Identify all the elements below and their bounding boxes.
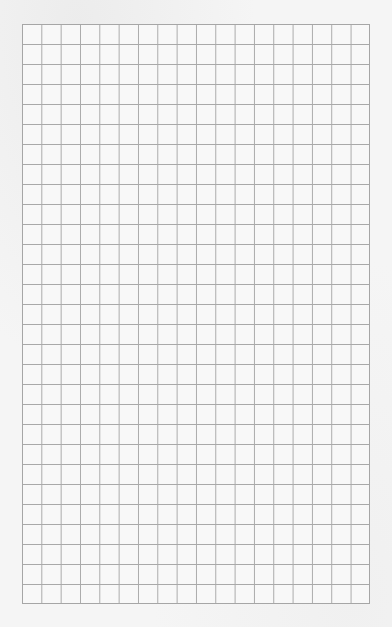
graph-paper-sheet [0,0,392,627]
square-grid [22,24,370,604]
